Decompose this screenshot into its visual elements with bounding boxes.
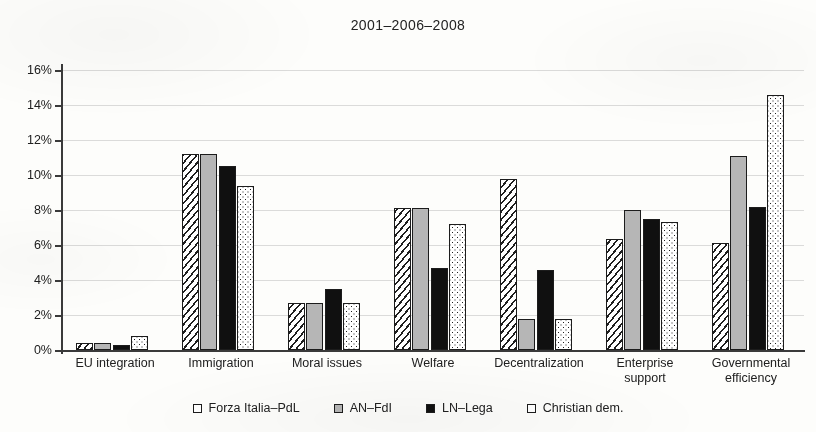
bar[interactable] [325, 289, 342, 350]
bar[interactable] [449, 224, 466, 350]
bar-group [288, 62, 361, 350]
bars-layer [62, 62, 804, 350]
x-axis-label: Welfare [380, 356, 486, 371]
legend-swatch-icon [426, 404, 435, 413]
plot-area [62, 62, 804, 350]
y-axis-tick-label: 10% [6, 168, 52, 182]
x-axis-label: Enterprise support [592, 356, 698, 386]
bar[interactable] [500, 179, 517, 351]
bar[interactable] [182, 154, 199, 350]
x-axis-label: Decentralization [486, 356, 592, 371]
y-axis-tick-mark [55, 105, 62, 107]
legend-swatch-icon [334, 404, 343, 413]
bar[interactable] [643, 219, 660, 350]
y-axis-tick-label: 0% [6, 343, 52, 357]
bar[interactable] [237, 186, 254, 351]
y-axis-tick-label: 6% [6, 238, 52, 252]
x-axis-label: Immigration [168, 356, 274, 371]
bar-group [76, 62, 149, 350]
bar[interactable] [200, 154, 217, 350]
bar-group [394, 62, 467, 350]
legend-swatch-icon [527, 404, 536, 413]
legend-item[interactable]: AN–FdI [334, 401, 392, 415]
y-axis-tick-label: 4% [6, 273, 52, 287]
x-axis-label: Governmental efficiency [698, 356, 804, 386]
x-axis-label: EU integration [62, 356, 168, 371]
bar[interactable] [555, 319, 572, 351]
legend-label: Forza Italia–PdL [209, 401, 300, 415]
bar[interactable] [749, 207, 766, 351]
bar[interactable] [661, 222, 678, 350]
y-axis-tick-label: 2% [6, 308, 52, 322]
bar[interactable] [767, 95, 784, 351]
bar[interactable] [537, 270, 554, 351]
bar[interactable] [624, 210, 641, 350]
bar-group [606, 62, 679, 350]
bar[interactable] [518, 319, 535, 351]
chart-title: 2001–2006–2008 [0, 17, 816, 33]
bar[interactable] [94, 343, 111, 350]
y-axis-tick-mark [55, 315, 62, 317]
bar[interactable] [412, 208, 429, 350]
bar[interactable] [343, 303, 360, 350]
bar[interactable] [306, 303, 323, 350]
x-axis-line [61, 350, 805, 352]
bar-group [500, 62, 573, 350]
chart-legend: Forza Italia–PdLAN–FdILN–LegaChristian d… [0, 401, 816, 415]
bar[interactable] [712, 243, 729, 350]
bar[interactable] [394, 208, 411, 350]
bar[interactable] [431, 268, 448, 350]
bar[interactable] [288, 303, 305, 350]
bar[interactable] [219, 166, 236, 350]
bar-group [182, 62, 255, 350]
bar[interactable] [606, 239, 623, 350]
y-axis-tick-mark [55, 210, 62, 212]
x-axis-category-labels: EU integrationImmigrationMoral issuesWel… [62, 356, 804, 402]
legend-label: LN–Lega [442, 401, 493, 415]
legend-label: Christian dem. [543, 401, 624, 415]
y-axis-tick-mark [55, 350, 62, 352]
y-axis-tick-labels: 0%2%4%6%8%10%12%14%16% [0, 0, 52, 432]
bar[interactable] [730, 156, 747, 350]
y-axis-tick-mark [55, 280, 62, 282]
legend-label: AN–FdI [350, 401, 392, 415]
x-axis-label: Moral issues [274, 356, 380, 371]
y-axis-tick-mark [55, 70, 62, 72]
legend-item[interactable]: Christian dem. [527, 401, 624, 415]
y-axis-tick-mark [55, 140, 62, 142]
y-axis-tick-label: 16% [6, 63, 52, 77]
y-axis-tick-label: 14% [6, 98, 52, 112]
y-axis-tick-mark [55, 175, 62, 177]
legend-item[interactable]: Forza Italia–PdL [193, 401, 300, 415]
y-axis-tick-label: 8% [6, 203, 52, 217]
y-axis-tick-label: 12% [6, 133, 52, 147]
bar[interactable] [131, 336, 148, 350]
bar-group [712, 62, 785, 350]
bar[interactable] [76, 343, 93, 350]
legend-item[interactable]: LN–Lega [426, 401, 493, 415]
y-axis-tick-mark [55, 245, 62, 247]
legend-swatch-icon [193, 404, 202, 413]
y-axis-line [61, 64, 63, 354]
